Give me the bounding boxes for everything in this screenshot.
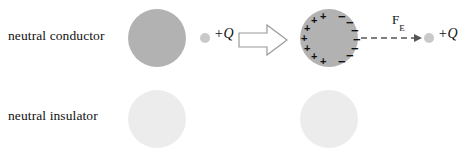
diagram-row-insulator: neutral insulator +Q δ + δ − δ + δ − xyxy=(0,80,469,160)
induced-positive-mark: + xyxy=(311,15,317,26)
diagram-row-conductor: neutral conductor +Q + + + + + + + − − −… xyxy=(0,0,469,80)
point-charge-label: +Q xyxy=(438,26,458,42)
induced-negative-mark: − xyxy=(346,50,354,61)
induced-negative-mark: − xyxy=(338,11,346,22)
induction-diagram: neutral conductor +Q + + + + + + + − − −… xyxy=(0,0,469,161)
row-label-insulator: neutral insulator xyxy=(8,108,128,124)
induced-negative-mark: − xyxy=(338,56,346,67)
point-charge-dot xyxy=(200,33,210,43)
point-charge-dot xyxy=(424,33,434,43)
row-label-conductor: neutral conductor xyxy=(8,28,128,44)
polarized-insulator-sphere xyxy=(300,90,358,148)
block-arrow-right-icon xyxy=(237,22,289,58)
dashed-arrow-right-icon xyxy=(360,14,426,48)
induced-positive-mark: + xyxy=(304,43,310,54)
induced-positive-mark: + xyxy=(320,11,326,22)
induced-positive-mark: + xyxy=(320,56,326,67)
point-charge-label: +Q xyxy=(214,26,234,42)
neutral-conductor-sphere xyxy=(128,9,186,67)
neutral-insulator-sphere xyxy=(128,90,186,148)
induced-positive-mark: + xyxy=(311,51,317,62)
